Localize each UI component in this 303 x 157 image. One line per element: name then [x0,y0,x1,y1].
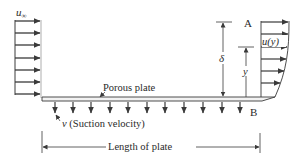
suction-arrows [55,102,240,113]
suction-velocity-label: v (Suction velocity) [62,118,145,130]
delta-label: δ [219,52,225,64]
plate-length-label: Length of plate [108,141,172,152]
y-label: y [242,66,248,77]
free-stream-velocity-label: u∞ [16,6,27,20]
point-a-label: A [244,17,252,29]
boundary-layer-profile [261,21,289,97]
point-b-label: B [250,106,257,118]
velocity-profile-label: u(y) [262,36,279,48]
porous-plate-label: Porous plate [103,82,156,93]
boundary-layer-diagram: u∞ Porous plate v (Suction velocity) B [0,0,303,157]
inflow-velocity-profile [15,20,41,98]
porous-plate [42,97,275,101]
suction-leader [56,115,60,121]
